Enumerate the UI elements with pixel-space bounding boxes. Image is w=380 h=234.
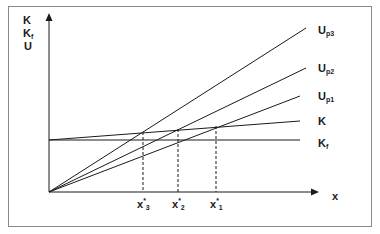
label-up2: Up2 bbox=[318, 63, 334, 74]
line-k bbox=[49, 121, 300, 140]
line-up1 bbox=[49, 96, 300, 192]
label-x1-star: x*1 bbox=[210, 199, 223, 210]
x-axis-label: x bbox=[332, 191, 338, 202]
y-label-kf: Kf bbox=[23, 28, 33, 39]
label-x2-star: x*2 bbox=[172, 199, 185, 210]
y-label-k: K bbox=[23, 15, 31, 26]
y-axis-arrow-icon bbox=[46, 13, 53, 21]
label-k: K bbox=[318, 116, 326, 127]
label-up1: Up1 bbox=[318, 91, 334, 102]
x-axis-arrow-icon bbox=[311, 189, 319, 196]
label-up3: Up3 bbox=[318, 25, 334, 36]
y-label-u: U bbox=[24, 41, 32, 52]
label-x3-star: x*3 bbox=[137, 199, 150, 210]
label-kf: Kf bbox=[318, 138, 328, 149]
line-up3 bbox=[49, 28, 306, 192]
